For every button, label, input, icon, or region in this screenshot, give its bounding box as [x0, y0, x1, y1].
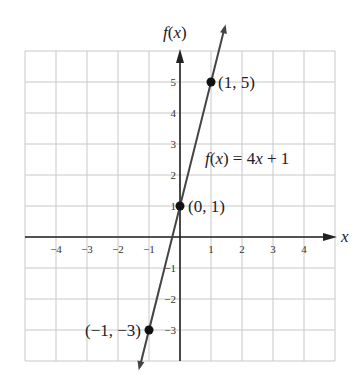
svg-text:2: 2: [171, 169, 177, 181]
svg-text:1: 1: [208, 243, 214, 255]
svg-text:(−1, −3): (−1, −3): [85, 321, 141, 340]
svg-text:4: 4: [171, 107, 177, 119]
svg-text:−3: −3: [164, 324, 176, 336]
svg-text:1: 1: [171, 200, 177, 212]
y-axis-label: f(x): [163, 23, 187, 42]
svg-text:3: 3: [270, 243, 276, 255]
function-graph: −4−3−2−11234−3−2−112345 (1, 5)(0, 1)(−1,…: [0, 0, 363, 386]
svg-text:(0, 1): (0, 1): [188, 197, 225, 216]
svg-text:−2: −2: [112, 243, 124, 255]
svg-text:−2: −2: [164, 293, 176, 305]
svg-text:−3: −3: [81, 243, 93, 255]
svg-text:2: 2: [239, 243, 245, 255]
svg-text:5: 5: [171, 76, 177, 88]
x-axis-label: x: [340, 227, 349, 246]
svg-text:4: 4: [301, 243, 307, 255]
equation-label: f(x) = 4x + 1: [205, 149, 289, 168]
svg-text:(1, 5): (1, 5): [218, 73, 255, 92]
svg-text:3: 3: [171, 138, 177, 150]
svg-text:−4: −4: [50, 243, 62, 255]
svg-text:−1: −1: [143, 243, 155, 255]
